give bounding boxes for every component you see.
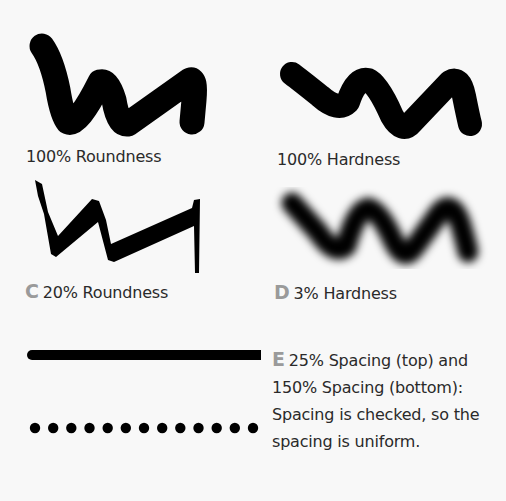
caption-d: D3% Hardness <box>274 281 397 303</box>
marker-d: D <box>274 281 290 303</box>
caption-e-line-1-text: 25% Spacing (top) and <box>289 351 468 370</box>
caption-e: E25% Spacing (top) and 150% Spacing (bot… <box>272 346 504 455</box>
caption-a: 100% Roundness <box>26 147 161 166</box>
caption-e-line-1: E25% Spacing (top) and <box>272 346 504 374</box>
stroke-3-hardness <box>292 203 468 254</box>
stroke-150-spacing <box>30 423 258 433</box>
stroke-100-roundness <box>42 46 195 124</box>
caption-e-line-3: Spacing is checked, so the <box>272 401 504 428</box>
caption-e-line-2: 150% Spacing (bottom): <box>272 374 504 401</box>
caption-e-line-4: spacing is uniform. <box>272 428 504 455</box>
caption-a-text: 100% Roundness <box>26 147 161 166</box>
caption-b: 100% Hardness <box>277 150 400 169</box>
caption-c: C20% Roundness <box>25 280 168 302</box>
caption-c-text: 20% Roundness <box>43 283 168 302</box>
stroke-100-hardness <box>292 74 470 127</box>
caption-b-text: 100% Hardness <box>277 150 400 169</box>
caption-d-text: 3% Hardness <box>294 284 397 303</box>
marker-e: E <box>272 348 285 370</box>
stroke-25-spacing <box>27 350 261 360</box>
marker-c: C <box>25 280 39 302</box>
stroke-20-roundness <box>35 180 200 273</box>
